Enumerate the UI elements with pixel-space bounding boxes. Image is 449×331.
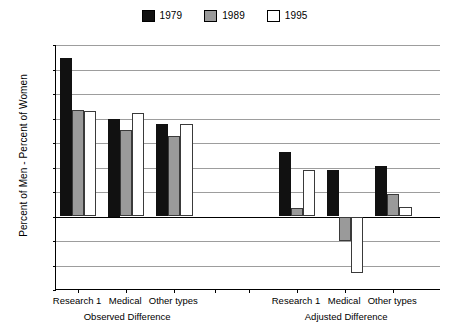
bar-observed-difference-research-1-1995 [84,111,96,217]
y-tick-mark--15 [53,290,56,291]
x-tick-medical [345,289,346,293]
plot-area: 35302520151050-5-10-15 [55,45,440,290]
legend-entry-1989: 1989 [204,10,245,22]
x-tick-other-types [174,289,175,293]
bar-adjusted-difference-research-1-1989 [291,208,303,217]
legend-swatch-1995 [267,10,280,22]
bars-layer [56,45,440,289]
bar-adjusted-difference-medical-1979 [327,170,339,217]
bar-observed-difference-research-1-1979 [60,58,72,216]
bar-observed-difference-other-types-1995 [180,124,192,216]
x-tick-other-types [393,289,394,293]
x-tick-spacer-0 [215,289,216,293]
bar-adjusted-difference-research-1-1995 [303,170,315,216]
legend-swatch-1989 [204,10,217,22]
y-axis-title: Percent of Men - Percent of Women [18,41,29,271]
bar-adjusted-difference-other-types-1979 [375,166,387,216]
x-tick-medical [126,289,127,293]
x-axis-label-other-types: Other types [138,296,208,306]
x-axis-label-other-types: Other types [357,296,427,306]
x-tick-spacer-1 [249,289,250,293]
bar-adjusted-difference-medical-1989 [339,217,351,242]
legend-label-1989: 1989 [222,11,245,21]
bar-observed-difference-medical-1989 [120,130,132,216]
bar-observed-difference-medical-1979 [108,119,120,217]
bar-chart: 1979 1989 1995 Percent of Men - Percent … [0,0,449,331]
bar-adjusted-difference-medical-1995 [351,217,363,273]
bar-adjusted-difference-other-types-1989 [387,194,399,217]
panel-label-observed-difference: Observed Difference [57,312,197,322]
chart-legend: 1979 1989 1995 [0,10,449,22]
bar-observed-difference-medical-1995 [132,113,144,216]
bar-adjusted-difference-other-types-1995 [399,207,411,216]
x-tick-research-1 [78,289,79,293]
legend-label-1979: 1979 [160,11,183,21]
bar-observed-difference-other-types-1989 [168,136,180,217]
bar-observed-difference-other-types-1979 [156,124,168,216]
bar-observed-difference-research-1-1989 [72,110,84,217]
x-tick-research-1 [297,289,298,293]
legend-label-1995: 1995 [285,11,308,21]
bar-adjusted-difference-research-1-1979 [279,152,291,216]
legend-swatch-1979 [142,10,155,22]
legend-entry-1995: 1995 [267,10,308,22]
legend-entry-1979: 1979 [142,10,183,22]
panel-label-adjusted-difference: Adjusted Difference [276,312,416,322]
